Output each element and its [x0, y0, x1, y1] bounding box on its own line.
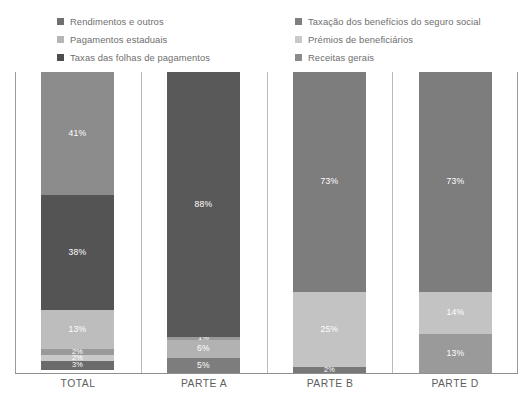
category-label: PARTE B — [267, 378, 393, 389]
bar-segment[interactable]: 38% — [41, 195, 114, 309]
square-swatch-icon — [57, 54, 64, 61]
legend-item[interactable]: Taxas das folhas de pagamentos — [57, 49, 210, 66]
bar-segment[interactable]: 3% — [41, 361, 114, 370]
legend-item-label: Taxas das folhas de pagamentos — [70, 52, 210, 63]
legend-item-label: Prémios de beneficiários — [308, 34, 413, 45]
chart-legend: Rendimentos e outrosPagamentos estaduais… — [0, 13, 531, 65]
bar-group-separator — [392, 72, 393, 373]
category-label: TOTAL — [15, 378, 141, 389]
bar-group: 41%38%13%2%2%3% — [41, 72, 114, 373]
bar-segment-label: 41% — [69, 129, 87, 138]
stacked-bar-chart: Rendimentos e outrosPagamentos estaduais… — [0, 0, 531, 416]
bar-segment-label: 73% — [447, 177, 465, 186]
axis-line-bottom — [15, 373, 518, 374]
bar-segment[interactable]: 5% — [167, 358, 240, 373]
stacked-bar[interactable]: 41%38%13%2%2%3% — [41, 72, 114, 373]
bar-segment[interactable]: 73% — [419, 72, 492, 292]
bar-segment[interactable]: 73% — [293, 72, 366, 292]
category-label: PARTE A — [141, 378, 267, 389]
bar-segment-label: 14% — [447, 308, 465, 317]
bar-group-separator — [267, 72, 268, 373]
plot-area: 41%38%13%2%2%3%88%1%6%5%73%25%2%73%14%13… — [15, 72, 518, 374]
bar-segment-label: 38% — [69, 248, 87, 257]
axis-line-right — [517, 72, 518, 374]
bar-segment[interactable]: 88% — [167, 72, 240, 337]
square-swatch-icon — [295, 18, 302, 25]
bar-segment[interactable]: 41% — [41, 72, 114, 195]
stacked-bar[interactable]: 88%1%6%5% — [167, 72, 240, 373]
page-bottom-strip — [0, 404, 531, 416]
bar-group: 88%1%6%5% — [167, 72, 240, 373]
square-swatch-icon — [57, 18, 64, 25]
legend-item[interactable]: Rendimentos e outros — [57, 13, 210, 30]
bar-segment-label: 13% — [69, 325, 87, 334]
axis-line-left — [15, 72, 16, 374]
square-swatch-icon — [57, 36, 64, 43]
legend-item[interactable]: Taxação dos benefícios do seguro social — [295, 13, 481, 30]
legend-column-left: Rendimentos e outrosPagamentos estaduais… — [57, 13, 210, 67]
bar-segment-label: 6% — [197, 344, 210, 353]
bar-segment[interactable]: 13% — [419, 334, 492, 373]
bar-segment-label: 13% — [447, 349, 465, 358]
legend-item[interactable]: Prémios de beneficiários — [295, 31, 481, 48]
bar-segment-label: 2% — [324, 367, 335, 373]
legend-item[interactable]: Pagamentos estaduais — [57, 31, 210, 48]
bar-group-separator — [141, 72, 142, 373]
bar-segment[interactable]: 14% — [419, 292, 492, 334]
stacked-bar[interactable]: 73%25%2% — [293, 72, 366, 373]
legend-item-label: Receitas gerais — [308, 52, 374, 63]
category-label: PARTE D — [392, 378, 518, 389]
legend-item-label: Pagamentos estaduais — [70, 34, 167, 45]
legend-column-right: Taxação dos benefícios do seguro socialP… — [295, 13, 481, 67]
bar-segment[interactable]: 6% — [167, 340, 240, 358]
square-swatch-icon — [295, 36, 302, 43]
legend-item[interactable]: Receitas gerais — [295, 49, 481, 66]
bar-segment[interactable]: 13% — [41, 310, 114, 349]
bar-segment-label: 5% — [197, 361, 210, 370]
legend-item-label: Rendimentos e outros — [70, 16, 164, 27]
bar-group: 73%25%2% — [293, 72, 366, 373]
bar-segment-label: 88% — [195, 200, 213, 209]
bar-group: 73%14%13% — [419, 72, 492, 373]
bar-segment-label: 3% — [72, 361, 83, 369]
bar-segment[interactable]: 2% — [293, 367, 366, 373]
bar-segment[interactable]: 25% — [293, 292, 366, 367]
category-axis-labels: TOTALPARTE APARTE BPARTE D — [15, 378, 518, 398]
square-swatch-icon — [295, 54, 302, 61]
bar-segment-label: 25% — [321, 325, 339, 334]
legend-item-label: Taxação dos benefícios do seguro social — [308, 16, 481, 27]
bar-segment-label: 73% — [321, 177, 339, 186]
stacked-bar[interactable]: 73%14%13% — [419, 72, 492, 373]
